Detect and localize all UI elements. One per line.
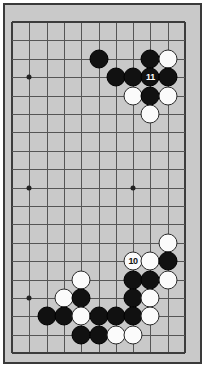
stone-black[interactable] xyxy=(72,325,91,344)
stone-black[interactable] xyxy=(124,307,143,326)
stone-black[interactable] xyxy=(72,289,91,308)
grid-line-horizontal xyxy=(12,132,185,133)
stone-white[interactable] xyxy=(158,233,177,252)
star-point xyxy=(27,185,32,190)
stone-white[interactable] xyxy=(141,252,160,271)
grid-line-horizontal xyxy=(12,40,185,41)
stone-black[interactable] xyxy=(106,307,125,326)
move-number-label: 10 xyxy=(128,257,137,266)
stone-black[interactable] xyxy=(106,68,125,87)
grid-line-horizontal xyxy=(12,224,185,225)
stone-white[interactable] xyxy=(54,289,73,308)
stone-white[interactable] xyxy=(124,325,143,344)
stone-black-move-11[interactable]: 11 xyxy=(141,68,160,87)
stone-black[interactable] xyxy=(158,68,177,87)
grid-line-horizontal xyxy=(12,21,185,23)
stone-black[interactable] xyxy=(141,270,160,289)
stone-white[interactable] xyxy=(141,289,160,308)
grid-line-horizontal xyxy=(12,151,185,152)
star-point xyxy=(27,296,32,301)
grid-line-horizontal xyxy=(12,206,185,207)
go-diagram: 1110 xyxy=(0,0,205,367)
move-number-label: 11 xyxy=(146,73,155,82)
stone-black[interactable] xyxy=(89,307,108,326)
grid-line-horizontal xyxy=(12,352,185,354)
star-point xyxy=(27,75,32,80)
stone-black[interactable] xyxy=(141,86,160,105)
stone-white[interactable] xyxy=(141,105,160,124)
stone-black[interactable] xyxy=(124,289,143,308)
stone-black[interactable] xyxy=(158,252,177,271)
stone-black[interactable] xyxy=(37,307,56,326)
stone-black[interactable] xyxy=(124,68,143,87)
stone-white[interactable] xyxy=(106,325,125,344)
stone-black[interactable] xyxy=(124,270,143,289)
stone-white-move-10[interactable]: 10 xyxy=(124,252,143,271)
stone-white[interactable] xyxy=(141,307,160,326)
stone-black[interactable] xyxy=(89,49,108,68)
star-point xyxy=(131,185,136,190)
stone-white[interactable] xyxy=(158,270,177,289)
stone-white[interactable] xyxy=(72,270,91,289)
go-board-grid: 1110 xyxy=(5,5,200,362)
grid-line-horizontal xyxy=(12,169,185,170)
grid-line-horizontal xyxy=(12,188,185,189)
stone-white[interactable] xyxy=(158,86,177,105)
stone-white[interactable] xyxy=(158,49,177,68)
stone-white[interactable] xyxy=(72,307,91,326)
stone-white[interactable] xyxy=(124,86,143,105)
go-board-surface[interactable]: 1110 xyxy=(3,3,202,364)
stone-black[interactable] xyxy=(141,49,160,68)
stone-black[interactable] xyxy=(54,307,73,326)
stone-black[interactable] xyxy=(89,325,108,344)
